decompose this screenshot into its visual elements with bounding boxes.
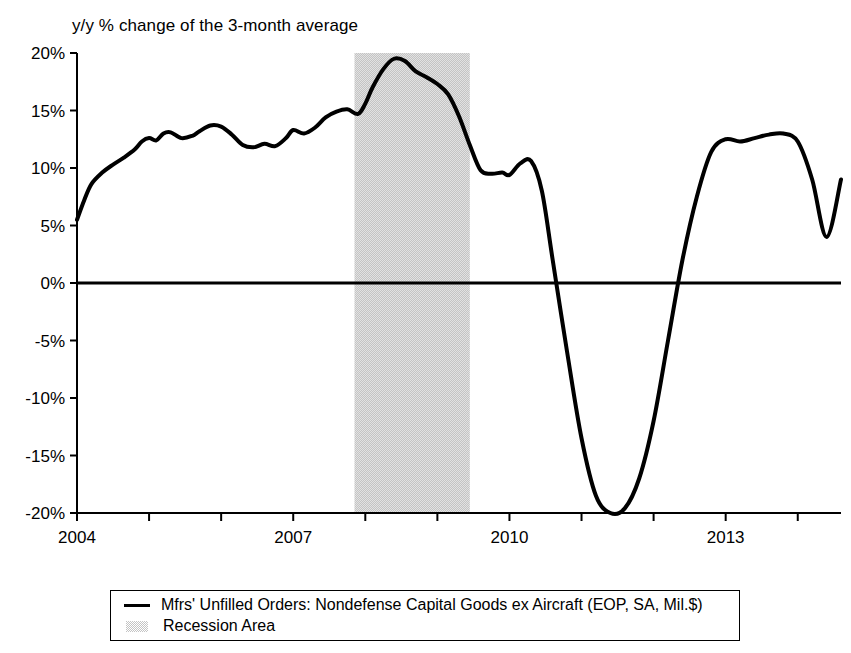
svg-text:10%: 10%	[31, 159, 65, 178]
svg-text:20%: 20%	[31, 44, 65, 63]
svg-text:0%: 0%	[40, 274, 65, 293]
legend-line-icon	[124, 604, 150, 607]
legend-area-icon	[126, 621, 148, 632]
svg-text:-15%: -15%	[25, 447, 65, 466]
chart-plot-area: 20%15%10%5%0%-5%-10%-15%-20% 20042007201…	[0, 0, 851, 653]
svg-text:15%: 15%	[31, 102, 65, 121]
x-axis-ticks	[77, 513, 798, 521]
chart-container: y/y % change of the 3-month average 20%1…	[0, 0, 851, 653]
svg-text:-5%: -5%	[35, 332, 65, 351]
svg-text:-10%: -10%	[25, 389, 65, 408]
legend-item-recession: Recession Area	[124, 617, 275, 635]
legend-label-series: Mfrs' Unfilled Orders: Nondefense Capita…	[161, 596, 703, 614]
svg-text:2013: 2013	[707, 528, 745, 547]
legend-item-series: Mfrs' Unfilled Orders: Nondefense Capita…	[124, 596, 703, 614]
svg-text:2007: 2007	[274, 528, 312, 547]
svg-text:2004: 2004	[58, 528, 96, 547]
svg-text:2010: 2010	[491, 528, 529, 547]
legend-label-recession: Recession Area	[163, 617, 275, 635]
y-axis-tick-labels: 20%15%10%5%0%-5%-10%-15%-20%	[25, 44, 65, 523]
svg-text:-20%: -20%	[25, 504, 65, 523]
svg-text:5%: 5%	[40, 217, 65, 236]
x-axis-tick-labels: 2004200720102013	[58, 528, 745, 547]
y-axis-ticks	[70, 53, 77, 513]
chart-legend: Mfrs' Unfilled Orders: Nondefense Capita…	[110, 590, 740, 641]
